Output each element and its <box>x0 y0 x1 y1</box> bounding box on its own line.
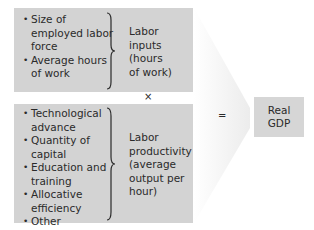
real-gdp-box: Real GDP <box>254 97 304 137</box>
factor-item: Technological advance <box>23 107 118 134</box>
label-line: GDP <box>254 117 304 131</box>
labor-productivity-label: Labor productivity (average output per h… <box>129 131 192 199</box>
labor-inputs-box: Size of employed labor force Average hou… <box>14 8 193 92</box>
factor-item: Other <box>23 215 118 229</box>
factor-item: Allocative efficiency <box>23 188 118 215</box>
labor-productivity-factors: Technological advance Quantity of capita… <box>23 107 118 229</box>
labor-productivity-box: Technological advance Quantity of capita… <box>14 104 193 223</box>
label-line: of work) <box>129 66 172 80</box>
factor-item: Size of employed labor force <box>23 13 115 54</box>
label-line: (average <box>129 158 192 172</box>
factor-item: Quantity of capital <box>23 134 118 161</box>
equals-symbol: = <box>218 110 226 121</box>
label-line: Labor <box>129 131 192 145</box>
brace-icon <box>106 107 116 221</box>
label-line: output per <box>129 172 192 186</box>
factor-item: Average hours of work <box>23 54 115 81</box>
label-line: hour) <box>129 185 192 199</box>
labor-inputs-label: Labor inputs (hours of work) <box>129 25 172 79</box>
label-line: inputs <box>129 39 172 53</box>
label-line: Labor <box>129 25 172 39</box>
brace-icon <box>106 12 116 90</box>
factor-item: Education and training <box>23 161 118 188</box>
multiply-symbol: × <box>144 91 152 102</box>
label-line: Real <box>254 104 304 118</box>
label-line: productivity <box>129 145 192 159</box>
label-line: (hours <box>129 52 172 66</box>
labor-inputs-factors: Size of employed labor force Average hou… <box>23 13 115 81</box>
